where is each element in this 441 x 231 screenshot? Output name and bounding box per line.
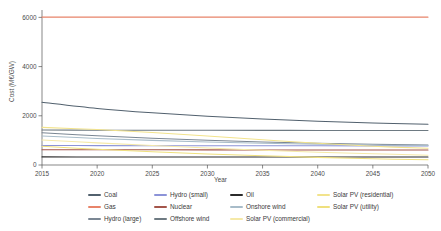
legend-swatch-line-icon (154, 218, 167, 220)
legend-swatch-line-icon (317, 206, 330, 208)
legend-label: Solar PV (commercial) (246, 216, 310, 222)
legend-swatch-line-icon (230, 206, 243, 208)
series-line (42, 146, 428, 160)
legend-label: Offshore wind (170, 216, 209, 222)
series-line (42, 102, 428, 124)
legend-label: Solar PV (residential) (333, 192, 393, 198)
legend-label: Hydro (small) (170, 192, 208, 198)
y-tick-label: 6000 (22, 14, 37, 21)
legend-label: Gas (104, 204, 116, 210)
y-axis-title: Cost (M€/GW) (8, 52, 15, 112)
legend-item[interactable]: Oil (230, 192, 313, 198)
legend-swatch-line-icon (88, 206, 101, 208)
legend-label: Hydro (large) (104, 216, 141, 222)
plot-canvas: 0200040006000 20152020202520302035204020… (42, 10, 428, 165)
legend-label: Nuclear (170, 204, 192, 210)
legend-item[interactable]: Offshore wind (154, 216, 226, 222)
legend-swatch-line-icon (317, 194, 330, 196)
legend-item[interactable]: Solar PV (utility) (317, 204, 427, 210)
legend-swatch-line-icon (154, 206, 167, 208)
legend-label: Coal (104, 192, 117, 198)
legend-label: Oil (246, 192, 254, 198)
legend-item[interactable]: Coal (88, 192, 150, 198)
legend-swatch-line-icon (230, 218, 243, 220)
y-axis-ticks: 0200040006000 (22, 14, 42, 169)
legend-label: Onshore wind (246, 204, 285, 210)
legend-item[interactable]: Gas (88, 204, 150, 210)
legend-item[interactable]: Solar PV (residential) (317, 192, 427, 198)
legend-swatch-line-icon (154, 194, 167, 196)
series-lines (42, 17, 428, 160)
y-tick-label: 4000 (22, 63, 37, 70)
y-tick-label: 2000 (22, 112, 37, 119)
plot-area: 0200040006000 20152020202520302035204020… (42, 10, 428, 165)
legend-swatch-line-icon (230, 194, 243, 196)
y-tick-label: 0 (33, 161, 37, 168)
legend-swatch-line-icon (88, 218, 101, 220)
legend-item[interactable]: Nuclear (154, 204, 226, 210)
legend-label: Solar PV (utility) (333, 204, 379, 210)
legend-item[interactable]: Hydro (large) (88, 216, 150, 222)
line-chart: 0200040006000 20152020202520302035204020… (0, 0, 441, 231)
legend-item[interactable]: Onshore wind (230, 204, 313, 210)
legend-item[interactable]: Solar PV (commercial) (230, 216, 313, 222)
legend-item[interactable]: Hydro (small) (154, 192, 226, 198)
x-axis-title: Year (0, 176, 441, 183)
chart-legend: CoalHydro (small)OilSolar PV (residentia… (88, 189, 438, 225)
legend-swatch-line-icon (88, 194, 101, 196)
